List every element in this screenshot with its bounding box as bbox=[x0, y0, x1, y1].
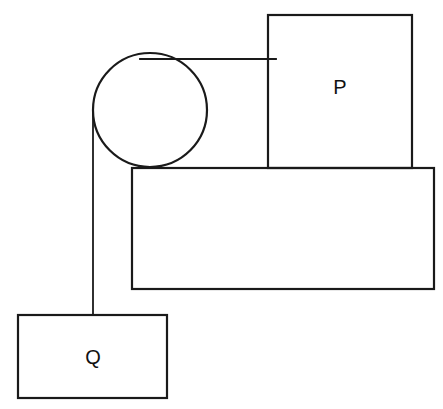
block-p-label: P bbox=[333, 76, 346, 98]
pulley-diagram: P Q bbox=[0, 0, 443, 409]
block-q-label: Q bbox=[85, 346, 101, 368]
table bbox=[132, 168, 434, 289]
pulley bbox=[93, 53, 207, 167]
